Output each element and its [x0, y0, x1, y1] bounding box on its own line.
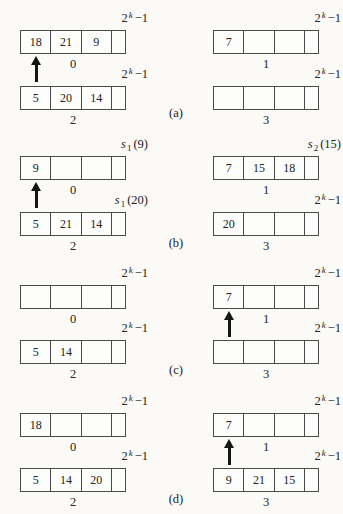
label-base: 2 [314, 266, 320, 280]
array-cell: 14 [82, 87, 112, 109]
label-base: 2 [121, 394, 127, 408]
array-top-label: s1(9) [121, 137, 148, 152]
array-cell: 20 [82, 469, 112, 491]
array-cell [275, 414, 305, 436]
array-cell-overflow [112, 87, 125, 109]
array-cell: 14 [82, 213, 112, 235]
array-box [213, 86, 319, 110]
label-rest: (15) [320, 137, 341, 151]
array-top-label: 2k−1 [121, 321, 148, 336]
array-cell-overflow [112, 31, 125, 53]
label-superscript: k [129, 448, 133, 458]
array-cell [51, 157, 81, 179]
array-cell [244, 414, 274, 436]
label-base: s [308, 137, 313, 151]
array-b-bucket0: s1(9) 9 0 [20, 156, 126, 180]
array-box: 5 14 [20, 340, 126, 364]
pointer-arrow-icon [224, 439, 234, 466]
array-cell: 14 [51, 341, 81, 363]
bucket-number: 0 [20, 440, 126, 455]
array-cell [275, 286, 305, 308]
bucket-number: 3 [213, 367, 319, 382]
label-rest: (20) [127, 193, 148, 207]
label-superscript: k [322, 393, 326, 403]
array-cell [275, 87, 305, 109]
figure-page: 2k−1 18 21 9 0 2k−1 7 1 2k−1 5 20 14 2 2… [0, 0, 343, 514]
array-c-bucket1: 2k−1 7 1 [213, 285, 319, 309]
array-cell: 21 [244, 469, 274, 491]
array-cell-overflow [112, 213, 125, 235]
array-cell: 21 [51, 31, 81, 53]
array-c-bucket0: 2k−1 0 [20, 285, 126, 309]
label-subscript: 1 [121, 199, 126, 209]
array-cell-overflow [305, 286, 318, 308]
arrow-shaft [228, 320, 231, 337]
array-box: 20 [213, 212, 319, 236]
label-rest: −1 [328, 67, 341, 81]
label-rest: (9) [133, 137, 148, 151]
array-top-label: 2k−1 [314, 266, 341, 281]
array-cell: 5 [21, 213, 51, 235]
array-cell-overflow [305, 213, 318, 235]
array-cell-overflow [112, 469, 125, 491]
label-base: 2 [121, 321, 127, 335]
label-rest: −1 [328, 321, 341, 335]
label-superscript: k [129, 66, 133, 76]
label-base: 2 [314, 449, 320, 463]
label-superscript: k [322, 448, 326, 458]
label-superscript: k [129, 265, 133, 275]
array-cell: 18 [21, 414, 51, 436]
array-cell: 7 [214, 157, 244, 179]
array-top-label: 2k−1 [121, 11, 148, 26]
array-top-label: 2k−1 [121, 449, 148, 464]
arrow-shaft [228, 448, 231, 465]
array-top-label: 2k−1 [314, 394, 341, 409]
bucket-number: 2 [20, 367, 126, 382]
label-rest: −1 [135, 11, 148, 25]
array-cell [21, 286, 51, 308]
label-rest: −1 [135, 321, 148, 335]
label-rest: −1 [135, 266, 148, 280]
bucket-number: 3 [213, 113, 319, 128]
array-cell: 7 [214, 286, 244, 308]
label-base: s [121, 137, 126, 151]
bucket-number: 1 [213, 183, 319, 198]
label-base: 2 [314, 67, 320, 81]
label-base: s [115, 193, 120, 207]
subfigure-tag-b: (b) [165, 236, 187, 251]
label-subscript: 1 [127, 143, 132, 153]
array-b-bucket3: 2k−1 20 3 [213, 212, 319, 236]
array-cell [51, 286, 81, 308]
array-cell [244, 87, 274, 109]
label-rest: −1 [135, 67, 148, 81]
array-box: 18 [20, 413, 126, 437]
label-superscript: k [129, 10, 133, 20]
array-top-label: 2k−1 [121, 67, 148, 82]
array-b-bucket1: s2(15) 7 15 18 1 [213, 156, 319, 180]
label-rest: −1 [328, 394, 341, 408]
array-b-bucket2: s1(20) 5 21 14 2 [20, 212, 126, 236]
label-base: 2 [121, 449, 127, 463]
array-cell-overflow [112, 157, 125, 179]
array-top-label: 2k−1 [314, 193, 341, 208]
array-cell: 15 [275, 469, 305, 491]
array-cell-overflow [305, 87, 318, 109]
array-c-bucket3: 2k−1 3 [213, 340, 319, 364]
array-cell: 14 [51, 469, 81, 491]
bucket-number: 3 [213, 495, 319, 510]
array-cell [244, 31, 274, 53]
array-cell-overflow [112, 341, 125, 363]
array-cell-overflow [112, 286, 125, 308]
label-base: 2 [314, 321, 320, 335]
array-cell: 5 [21, 341, 51, 363]
array-cell: 5 [21, 469, 51, 491]
array-box: 7 15 18 [213, 156, 319, 180]
label-base: 2 [314, 11, 320, 25]
label-rest: −1 [135, 394, 148, 408]
array-cell-overflow [305, 31, 318, 53]
arrow-head [31, 182, 41, 191]
array-cell: 18 [21, 31, 51, 53]
arrow-head [224, 311, 234, 320]
array-a-bucket2: 2k−1 5 20 14 2 [20, 86, 126, 110]
array-cell: 7 [214, 414, 244, 436]
